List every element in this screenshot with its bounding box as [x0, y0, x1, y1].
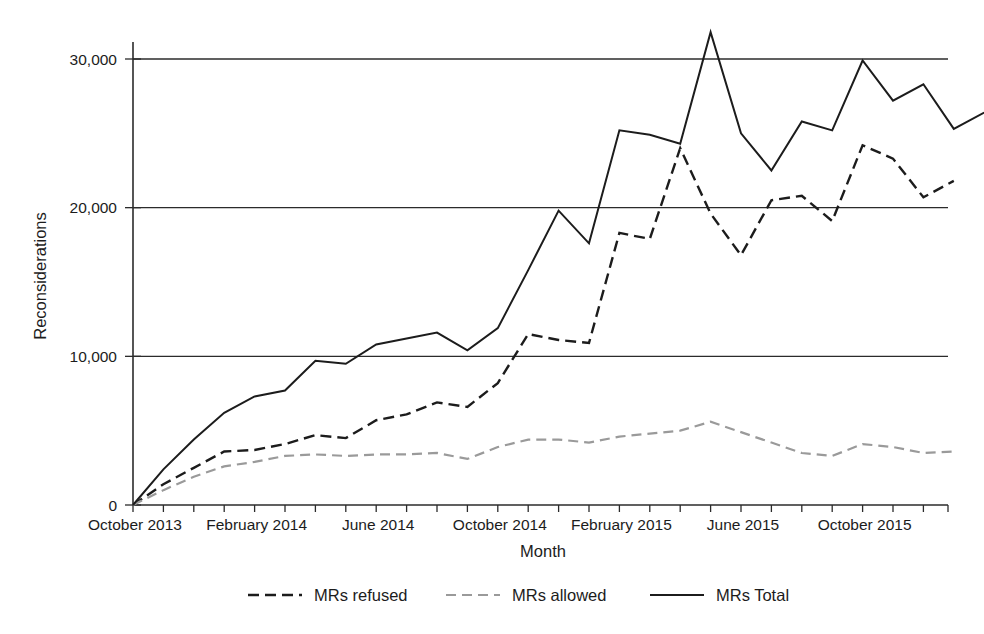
chart-axes	[125, 42, 948, 505]
y-tick-label-0: 0	[108, 497, 117, 514]
legend-label-mrs-refused: MRs refused	[314, 586, 408, 604]
y-axis-title: Reconsiderations	[31, 212, 49, 340]
y-tick-label-20000: 20,000	[70, 199, 118, 216]
y-tick-label-30000: 30,000	[70, 51, 118, 68]
series-line-mrs-allowed	[133, 422, 954, 505]
legend-label-mrs-total: MRs Total	[716, 586, 789, 604]
chart-legend: MRs refusedMRs allowedMRs Total	[248, 586, 789, 604]
data-series-group	[133, 32, 984, 505]
x-tick-marks	[133, 505, 948, 512]
x-tick-label-october-2015: October 2015	[818, 516, 912, 533]
chart-canvas: 010,00020,00030,000 October 2013February…	[0, 0, 984, 634]
x-axis-tick-labels: October 2013February 2014June 2014Octobe…	[88, 516, 912, 533]
x-tick-label-june-2014: June 2014	[342, 516, 415, 533]
x-tick-label-october-2013: October 2013	[88, 516, 182, 533]
x-tick-label-october-2014: October 2014	[453, 516, 547, 533]
series-line-mrs-refused	[133, 145, 954, 505]
x-tick-label-june-2015: June 2015	[707, 516, 779, 533]
reconsiderations-line-chart: 010,00020,00030,000 October 2013February…	[0, 0, 984, 634]
x-axis-title: Month	[520, 542, 566, 560]
grid-lines	[133, 59, 948, 356]
y-tick-label-10000: 10,000	[70, 348, 118, 365]
series-line-mrs-total	[133, 32, 984, 505]
y-axis-tick-labels: 010,00020,00030,000	[70, 51, 118, 514]
legend-label-mrs-allowed: MRs allowed	[512, 586, 606, 604]
x-tick-label-february-2015: February 2015	[571, 516, 672, 533]
x-tick-label-february-2014: February 2014	[206, 516, 307, 533]
